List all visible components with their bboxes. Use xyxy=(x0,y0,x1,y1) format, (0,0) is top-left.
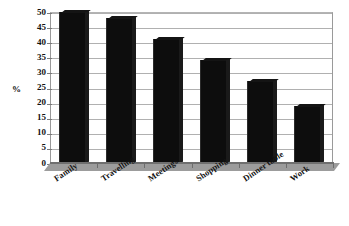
bar-side-face xyxy=(320,104,324,163)
y-axis-tick-label: 5 xyxy=(24,143,46,152)
bar-slot xyxy=(200,12,226,163)
bar-slot xyxy=(106,12,132,163)
bar-side-face xyxy=(132,17,136,163)
x-axis-tick-mark xyxy=(97,163,98,168)
y-axis-tick-label: 40 xyxy=(24,38,46,47)
y-axis-tick-labels: 50454035302520151050 xyxy=(22,0,46,226)
bar[interactable] xyxy=(294,106,321,163)
bar[interactable] xyxy=(59,12,86,163)
bar-slot xyxy=(153,12,179,163)
bar[interactable] xyxy=(200,60,227,163)
bar[interactable] xyxy=(106,18,133,163)
bar-series xyxy=(50,12,333,163)
y-axis-tick-label: 50 xyxy=(24,8,46,17)
bar-side-face xyxy=(179,38,183,163)
y-axis-tick-label: 20 xyxy=(24,98,46,107)
bar-slot xyxy=(59,12,85,163)
y-axis-tick-label: 30 xyxy=(24,68,46,77)
bar-side-face xyxy=(85,11,89,163)
y-axis-tick-label: 45 xyxy=(24,23,46,32)
y-axis-tick-label: 15 xyxy=(24,113,46,122)
x-axis-tick-mark xyxy=(239,163,240,168)
bar-slot xyxy=(294,12,320,163)
y-axis-tick-label: 0 xyxy=(24,159,46,168)
bar-chart: % 50454035302520151050 FamilyTravellingM… xyxy=(0,0,349,226)
bar-slot xyxy=(247,12,273,163)
x-axis-tick-mark xyxy=(286,163,287,168)
bar[interactable] xyxy=(153,39,180,163)
x-axis-tick-mark xyxy=(144,163,145,168)
y-axis-title: % xyxy=(12,84,21,94)
y-axis-tick-label: 25 xyxy=(24,83,46,92)
bar[interactable] xyxy=(247,81,274,163)
x-axis-tick-mark xyxy=(192,163,193,168)
y-axis-tick-label: 35 xyxy=(24,53,46,62)
y-axis-tick-label: 10 xyxy=(24,128,46,137)
x-axis-tick-mark xyxy=(333,163,334,168)
bar-side-face xyxy=(226,59,230,163)
